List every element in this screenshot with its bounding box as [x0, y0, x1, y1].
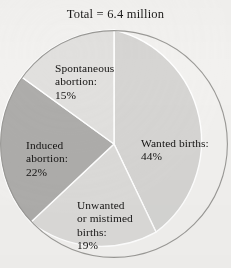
pie-label-wanted-births: Wanted births: 44%	[141, 124, 209, 177]
pie-label-spontaneous-abortion-text: Spontaneous abortion:	[55, 62, 114, 87]
pie-label-induced-abortion-text: Induced abortion:	[26, 139, 68, 164]
pie-label-wanted-births-value: 44%	[141, 150, 209, 163]
pie-label-induced-abortion: Induced abortion: 22%	[26, 126, 68, 192]
pie-label-unwanted-births-text: Unwanted or mistimed births:	[77, 199, 133, 237]
pie-label-spontaneous-abortion-value: 15%	[55, 89, 114, 102]
pie-label-wanted-births-text: Wanted births:	[141, 137, 209, 149]
pie-chart-figure: Total = 6.4 million Spontaneous abortion…	[0, 0, 231, 268]
pie-label-spontaneous-abortion: Spontaneous abortion: 15%	[55, 49, 114, 115]
pie-label-induced-abortion-value: 22%	[26, 166, 68, 179]
pie-label-unwanted-births-value: 19%	[77, 239, 133, 252]
pie-label-unwanted-births: Unwanted or mistimed births: 19%	[77, 186, 133, 265]
